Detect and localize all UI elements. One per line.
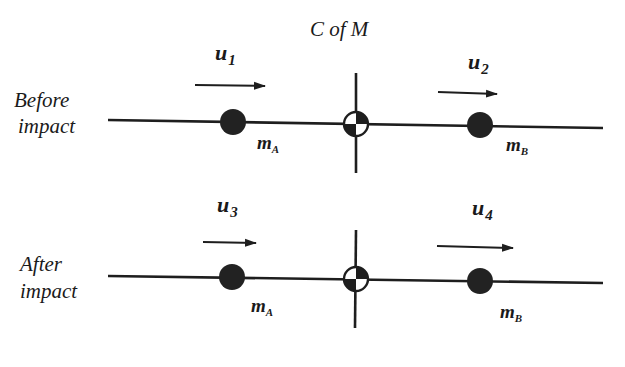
- velocity-arrow-u1-icon: [195, 85, 265, 86]
- velocity-arrow-u3-icon: [203, 242, 256, 243]
- mass-b-ball-icon: [467, 268, 493, 294]
- before-label-line2: impact: [18, 114, 76, 138]
- velocity-label-u2: u2: [468, 49, 489, 77]
- after-label-line1: After: [18, 252, 63, 276]
- mass-label-a: mA: [257, 132, 279, 155]
- center-of-mass-title: C of M: [310, 17, 370, 41]
- velocity-arrow-u2-icon: [438, 92, 497, 94]
- after-label-line2: impact: [20, 279, 78, 303]
- after-impact-row: After impact u3 u4 mA mB: [18, 192, 603, 328]
- mass-b-ball-icon: [467, 112, 493, 138]
- center-of-mass-icon: [344, 267, 368, 291]
- mass-a-ball-icon: [219, 264, 245, 290]
- mass-a-ball-icon: [220, 109, 246, 135]
- before-impact-row: Before impact u1 u2 mA mB: [14, 40, 603, 173]
- mass-label-b: mB: [506, 134, 528, 157]
- mass-label-a: mA: [251, 295, 273, 318]
- center-of-mass-icon: [344, 112, 368, 136]
- velocity-label-u4: u4: [472, 195, 493, 223]
- velocity-label-u1: u1: [215, 40, 236, 68]
- collision-diagram: C of M Before impact u1 u2 mA mB After i…: [0, 0, 625, 367]
- before-label-line1: Before: [14, 88, 69, 112]
- velocity-label-u3: u3: [217, 192, 238, 220]
- velocity-arrow-u4-icon: [437, 246, 513, 248]
- mass-label-b: mB: [500, 301, 522, 324]
